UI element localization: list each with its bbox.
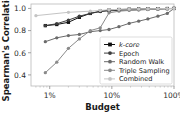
data-point: [67, 34, 70, 37]
data-point: [44, 24, 47, 27]
data-point: [137, 7, 140, 10]
data-point: [107, 11, 110, 14]
legend-marker: [108, 51, 112, 55]
data-point: [166, 7, 169, 10]
legend-marker: [108, 77, 112, 81]
data-point: [146, 7, 149, 10]
data-point: [67, 18, 70, 21]
data-point: [89, 10, 92, 13]
data-point: [172, 7, 175, 10]
figure-caption: [0, 119, 180, 127]
data-point: [128, 22, 131, 25]
chart-figure: 1%10%100%0.40.60.81.0BudgetSpearman's Co…: [0, 0, 180, 127]
legend-label: Epoch: [119, 50, 139, 58]
data-point: [67, 11, 70, 14]
y-tick-label: 0.6: [14, 49, 26, 58]
data-point: [117, 25, 120, 28]
y-axis-label: Spearman's Correlation: [1, 0, 11, 101]
data-point: [55, 22, 58, 25]
legend-label: Random Walk: [119, 58, 164, 66]
chart-legend: k-coreEpochRandom WalkTriple SamplingCom…: [100, 37, 172, 84]
x-tick-label: 100%: [163, 91, 180, 100]
legend-marker: [108, 60, 112, 64]
x-tick-label: 1%: [44, 91, 56, 100]
data-point: [44, 71, 47, 74]
data-point: [156, 15, 159, 18]
y-tick-label: 1.0: [14, 4, 26, 13]
data-point: [78, 37, 81, 40]
series-combined: [34, 7, 175, 18]
data-point: [34, 14, 37, 17]
x-axis-label: Budget: [85, 102, 120, 112]
data-point: [128, 7, 131, 10]
data-point: [146, 17, 149, 20]
data-point: [99, 9, 102, 12]
data-point: [137, 20, 140, 23]
legend-marker: [108, 68, 112, 72]
chart-canvas: 1%10%100%0.40.60.81.0BudgetSpearman's Co…: [0, 0, 180, 127]
data-point: [78, 33, 81, 36]
data-point: [99, 26, 102, 29]
y-tick-label: 0.4: [14, 71, 26, 80]
data-point: [156, 7, 159, 10]
data-point: [44, 40, 47, 43]
data-point: [166, 12, 169, 15]
legend-label: k-core: [119, 41, 140, 49]
x-tick-label: 10%: [104, 91, 121, 100]
data-point: [117, 8, 120, 11]
data-point: [107, 8, 110, 11]
data-point: [89, 29, 92, 32]
data-point: [55, 36, 58, 39]
legend-label: Combined: [119, 75, 153, 83]
legend-label: Triple Sampling: [118, 67, 170, 75]
data-point: [55, 61, 58, 64]
data-point: [78, 15, 81, 18]
data-point: [67, 47, 70, 50]
y-tick-label: 0.8: [14, 26, 26, 35]
legend-marker: [108, 43, 112, 47]
data-point: [107, 28, 110, 31]
